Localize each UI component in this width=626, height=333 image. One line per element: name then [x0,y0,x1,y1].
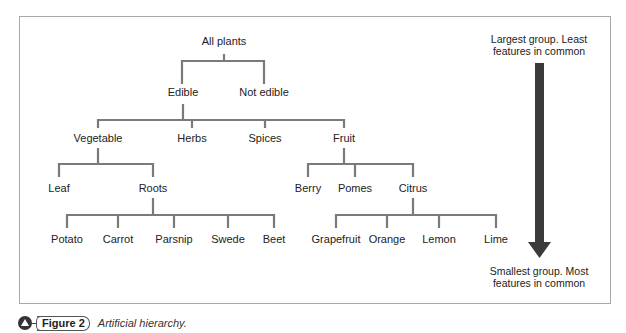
node-leaf: Leaf [48,182,69,194]
arrow-bottom-note: Smallest group. Most features in common [490,265,589,289]
arrow-top-line2: features in common [491,45,587,57]
node-pomes: Pomes [338,182,372,194]
arrow-bottom-line2: features in common [490,277,589,289]
node-all-plants: All plants [202,35,247,47]
node-beet: Beet [263,233,286,245]
node-roots: Roots [139,182,168,194]
node-berry: Berry [295,182,321,194]
node-spices: Spices [248,132,281,144]
node-herbs: Herbs [177,132,206,144]
figure-label: Figure 2 [37,316,90,331]
caption-text: Artificial hierarchy. [98,317,187,329]
node-potato: Potato [51,233,83,245]
node-orange: Orange [369,233,406,245]
triangle-icon [18,316,32,330]
node-not-edible: Not edible [239,86,289,98]
node-vegetable: Vegetable [74,132,123,144]
node-lime: Lime [484,233,508,245]
arrow-top-note: Largest group. Least features in common [491,33,587,57]
node-carrot: Carrot [103,233,134,245]
node-lemon: Lemon [422,233,456,245]
figure-caption: Figure 2 Artificial hierarchy. [18,316,187,330]
node-fruit: Fruit [333,132,355,144]
node-citrus: Citrus [399,182,428,194]
node-edible: Edible [168,86,199,98]
arrow-top-line1: Largest group. Least [491,33,587,45]
node-swede: Swede [211,233,245,245]
node-grapefruit: Grapefruit [312,233,361,245]
node-parsnip: Parsnip [155,233,192,245]
arrow-bottom-line1: Smallest group. Most [490,265,589,277]
down-arrow-icon [528,63,551,258]
